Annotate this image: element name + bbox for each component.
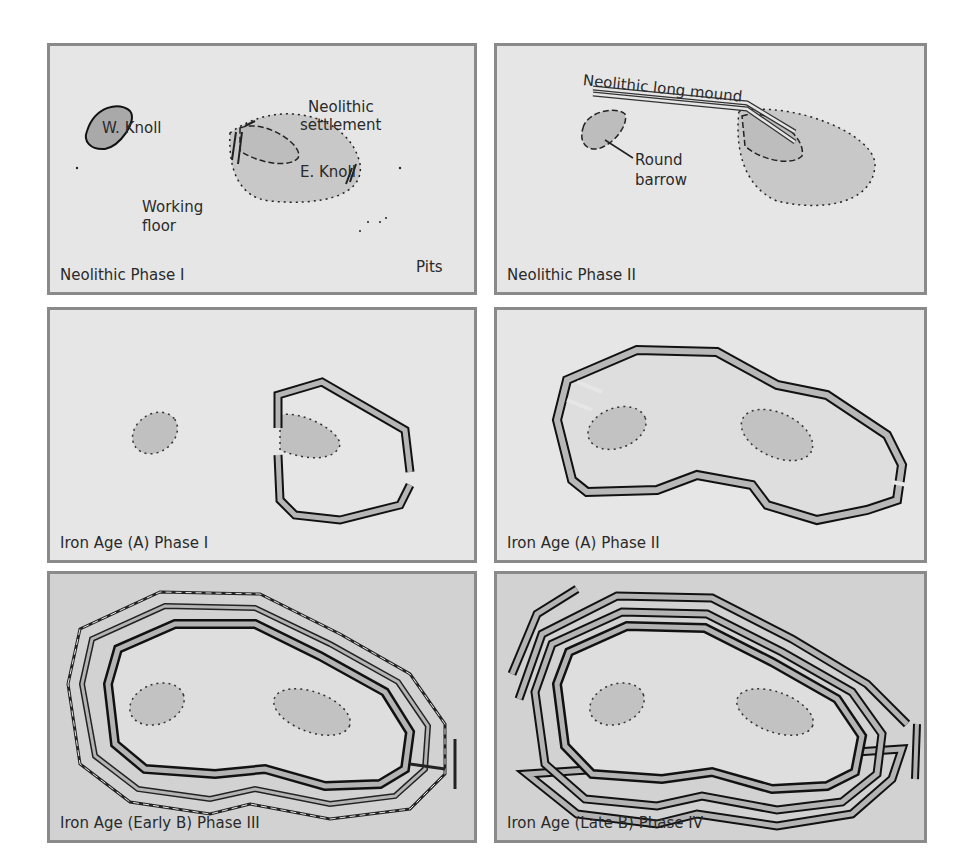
iron-age-early-b-phase-3-map [50, 574, 477, 843]
caption-neolithic-phase-1: Neolithic Phase I [60, 266, 185, 284]
panel-iron-age-a-phase-1: Iron Age (A) Phase I [47, 307, 477, 563]
neolithic-phase-1-map [50, 46, 477, 295]
panel-neolithic-phase-2: Neolithic long mound Round barrow Neolit… [494, 43, 927, 295]
caption-iron-age-early-b-phase-3: Iron Age (Early B) Phase III [60, 814, 260, 832]
panel-neolithic-phase-1: W. Knoll Neolithic settlement E. Knoll W… [47, 43, 477, 295]
caption-iron-age-a-phase-2: Iron Age (A) Phase II [507, 534, 660, 552]
iron-age-a-phase-1-map [50, 310, 477, 563]
label-round-line2: barrow [635, 171, 687, 189]
caption-iron-age-late-b-phase-4: Iron Age (Late B) Phase IV [507, 814, 703, 832]
label-pits: Pits [416, 258, 443, 276]
label-working-line1: Working [142, 198, 203, 216]
panel-iron-age-early-b-phase-3: Iron Age (Early B) Phase III [47, 571, 477, 843]
panel-iron-age-late-b-phase-4: Iron Age (Late B) Phase IV [494, 571, 927, 843]
label-w-knoll: W. Knoll [102, 119, 162, 137]
caption-neolithic-phase-2: Neolithic Phase II [507, 266, 636, 284]
iron-age-late-b-phase-4-map [497, 574, 927, 843]
panel-iron-age-a-phase-2: Iron Age (A) Phase II [494, 307, 927, 563]
label-e-knoll: E. Knoll [300, 163, 356, 181]
neolithic-phase-2-map [497, 46, 927, 295]
iron-age-a-phase-2-map [497, 310, 927, 563]
label-round-line1: Round [635, 151, 682, 169]
label-settlement-line1: Neolithic [308, 98, 374, 116]
caption-iron-age-a-phase-1: Iron Age (A) Phase I [60, 534, 208, 552]
label-working-line2: floor [142, 217, 176, 235]
label-settlement-line2: settlement [300, 116, 381, 134]
